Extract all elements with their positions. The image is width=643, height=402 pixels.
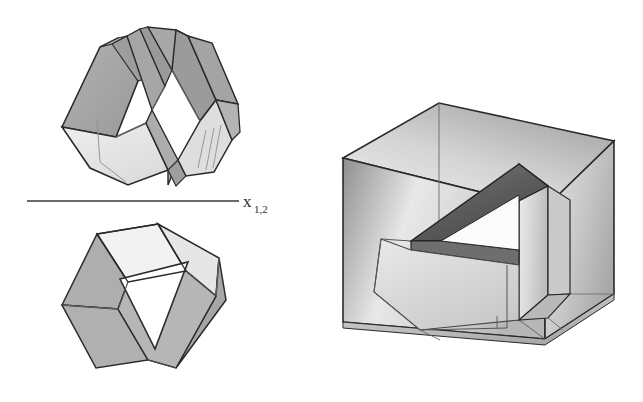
inner-wing-right: [548, 186, 570, 295]
axis-label-main: x: [243, 192, 252, 211]
figure-root: x 1,2: [0, 0, 643, 402]
axis-label-subscript: 1,2: [254, 203, 268, 215]
geometry-figure-canvas: x 1,2: [0, 0, 643, 402]
right-cube: [343, 103, 614, 345]
